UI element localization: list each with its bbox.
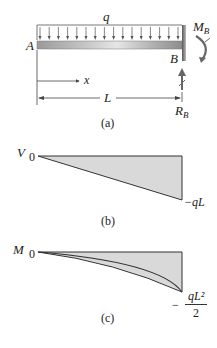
x-label: x bbox=[84, 74, 89, 86]
moment-label: MB bbox=[193, 20, 209, 36]
moment-origin-value: 0 bbox=[29, 248, 35, 260]
caption-a: (a) bbox=[101, 117, 114, 129]
caption-b: (b) bbox=[101, 215, 115, 227]
fixed-support-wall bbox=[182, 25, 186, 61]
moment-subscript: B bbox=[204, 26, 210, 36]
reaction-label: RB bbox=[175, 104, 188, 120]
fraction-bar bbox=[185, 304, 207, 305]
moment-end-sign: − bbox=[172, 299, 179, 311]
moment-axis-label: M bbox=[13, 243, 24, 256]
shear-end-value: −qL bbox=[184, 196, 205, 208]
moment-end-numerator: qL² bbox=[188, 290, 204, 302]
point-a-label: A bbox=[26, 39, 34, 52]
load-label: q bbox=[103, 10, 110, 23]
point-b-label: B bbox=[170, 52, 178, 65]
length-label: L bbox=[104, 91, 111, 104]
moment-arrow bbox=[196, 36, 210, 63]
load-arrows bbox=[39, 27, 180, 40]
reaction-subscript: B bbox=[183, 110, 189, 120]
moment-end-denominator: 2 bbox=[193, 307, 199, 319]
reaction-arrow bbox=[178, 68, 186, 90]
distributed-load bbox=[37, 25, 182, 40]
reaction-symbol: R bbox=[175, 103, 183, 118]
shear-origin-value: 0 bbox=[29, 151, 35, 163]
beam bbox=[37, 41, 182, 49]
moment-diagram bbox=[38, 252, 182, 292]
moment-symbol: M bbox=[193, 19, 204, 34]
caption-c: (c) bbox=[101, 312, 114, 324]
shear-diagram bbox=[38, 156, 182, 200]
shear-axis-label: V bbox=[17, 146, 25, 159]
